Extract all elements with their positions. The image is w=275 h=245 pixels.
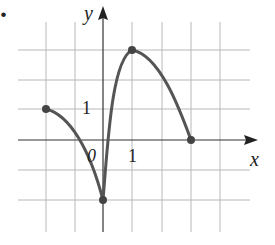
y-tick-1: 1 [82,98,91,119]
curve [46,50,191,200]
graph [0,0,275,245]
x-axis-arrow-icon [244,135,258,145]
x-tick-1: 1 [128,146,137,167]
point-end [187,136,195,144]
point-start [42,105,50,113]
point-min [99,196,107,204]
grid [18,22,250,232]
problem-marker: . [0,0,7,24]
curve-piece-2 [103,50,132,200]
origin-label: 0 [87,146,96,167]
y-axis-arrow-icon [98,6,108,20]
y-axis-label: y [84,2,93,25]
x-axis-label: x [250,148,259,171]
point-max [128,46,136,54]
